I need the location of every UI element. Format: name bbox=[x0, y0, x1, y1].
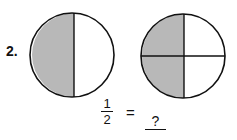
quarters-circle bbox=[141, 14, 225, 98]
answer-blank: ? bbox=[145, 114, 166, 130]
fraction-circles bbox=[0, 0, 237, 140]
equals-sign: = bbox=[126, 104, 135, 121]
numerator: 1 bbox=[101, 97, 113, 110]
halves-circle bbox=[30, 13, 114, 97]
denominator: 2 bbox=[101, 113, 113, 126]
fraction-one-half: 1 2 bbox=[101, 97, 113, 126]
